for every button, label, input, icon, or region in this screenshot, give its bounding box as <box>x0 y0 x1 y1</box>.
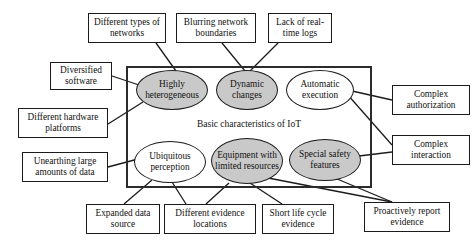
factor-diversified-software[interactable]: Diversified software <box>50 62 112 90</box>
characteristic-ubiquitous-perception[interactable]: Ubiquitous perception <box>134 141 206 183</box>
factor-label: Blurring network boundaries <box>178 17 254 38</box>
characteristic-highly-heterogeneous[interactable]: Highly heterogeneous <box>136 70 208 110</box>
factor-complex-authorization[interactable]: Complex authorization <box>392 85 470 115</box>
characteristic-label: Dynamic changes <box>220 79 274 100</box>
characteristic-label: Automatic execution <box>290 79 350 100</box>
factor-unearthing-large-amounts-of-data[interactable]: Unearthing large amounts of data <box>22 152 108 182</box>
factor-label: Complex interaction <box>394 139 468 160</box>
factor-label: Different types of networks <box>90 17 164 38</box>
characteristic-label: Ubiquitous perception <box>138 151 202 172</box>
factor-label: Unearthing large amounts of data <box>24 156 106 177</box>
factor-different-hardware-platforms[interactable]: Different hardware platforms <box>18 108 108 138</box>
factor-different-evidence-locations[interactable]: Different evidence locations <box>164 204 256 234</box>
factor-different-types-of-networks[interactable]: Different types of networks <box>88 13 166 43</box>
characteristic-dynamic-changes[interactable]: Dynamic changes <box>216 70 278 110</box>
characteristic-equipment-limited-resources[interactable]: Equipment with limited resources <box>211 138 283 184</box>
factor-blurring-network-boundaries[interactable]: Blurring network boundaries <box>176 13 256 43</box>
factor-label: Expanded data source <box>88 208 158 229</box>
factor-proactively-report-evidence[interactable]: Proactively report evidence <box>364 202 450 232</box>
factor-label: Short life cycle evidence <box>264 208 332 229</box>
characteristic-label: Equipment with limited resources <box>215 150 279 171</box>
factor-short-life-cycle-evidence[interactable]: Short life cycle evidence <box>262 204 334 234</box>
characteristic-label: Special safety features <box>293 149 357 170</box>
factor-label: Different evidence locations <box>166 208 254 229</box>
factor-label: Proactively report evidence <box>366 206 448 227</box>
factor-label: Different hardware platforms <box>20 112 106 133</box>
iot-characteristics-diagram: Basic characteristics of IoT Highly hete… <box>0 0 476 249</box>
characteristic-special-safety-features[interactable]: Special safety features <box>289 139 361 181</box>
factor-complex-interaction[interactable]: Complex interaction <box>392 135 470 165</box>
factor-label: Diversified software <box>52 65 110 86</box>
characteristic-automatic-execution[interactable]: Automatic execution <box>286 70 354 110</box>
factor-expanded-data-source[interactable]: Expanded data source <box>86 204 160 234</box>
characteristic-label: Highly heterogeneous <box>140 79 204 100</box>
factor-label: Complex authorization <box>394 89 468 110</box>
factor-label: Lack of real-time logs <box>270 17 330 38</box>
container-label: Basic characteristics of IoT <box>126 119 372 129</box>
factor-lack-of-real-time-logs[interactable]: Lack of real-time logs <box>268 13 332 43</box>
